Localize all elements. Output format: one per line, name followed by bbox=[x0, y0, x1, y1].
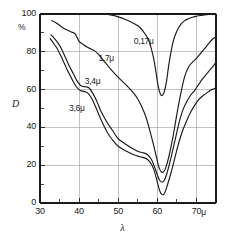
curve-label-4: 3,6μ bbox=[69, 103, 85, 113]
x-tick-label: 30 bbox=[26, 206, 54, 216]
x-axis-unit-label: μ bbox=[201, 207, 206, 217]
x-tick-label: 40 bbox=[65, 206, 93, 216]
y-tick-label: 60 bbox=[8, 84, 36, 94]
curve-4 bbox=[50, 39, 216, 195]
x-axis-title: λ bbox=[120, 222, 124, 233]
curve-label-2: 1,7μ bbox=[98, 53, 114, 63]
y-tick-label: 80 bbox=[8, 46, 36, 56]
y-axis-title: D bbox=[12, 98, 19, 109]
x-tick-label: 60 bbox=[143, 206, 171, 216]
grid-lines bbox=[40, 14, 216, 203]
x-tick-label: 70 bbox=[182, 206, 210, 216]
y-axis-unit-label: % bbox=[18, 22, 26, 32]
y-tick-label: 40 bbox=[8, 121, 36, 131]
x-tick-label: 50 bbox=[104, 206, 132, 216]
y-tick-label: 100 bbox=[8, 8, 36, 18]
figure-container: 020406080100 3040506070 0,17μ1,7μ3,4μ3,6… bbox=[0, 0, 234, 246]
curve-label-3: 3,4μ bbox=[85, 76, 101, 86]
plot-frame bbox=[40, 14, 216, 203]
y-tick-label: 20 bbox=[8, 159, 36, 169]
curve-label-1: 0,17μ bbox=[134, 36, 154, 46]
